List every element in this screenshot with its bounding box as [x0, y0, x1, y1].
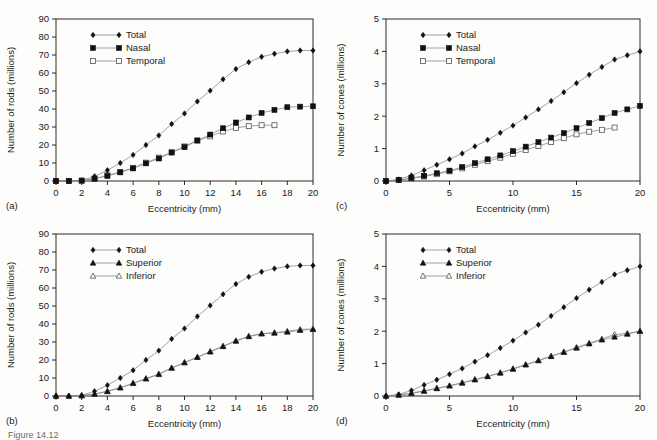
marker-filled-triangle	[420, 260, 426, 265]
x-tick-label: 14	[231, 187, 242, 198]
legend-label: Total	[126, 29, 146, 40]
marker-filled-diamond	[247, 60, 251, 65]
marker-filled-diamond	[536, 107, 540, 112]
legend-label: Inferior	[126, 270, 156, 281]
x-tick-label: 10	[508, 402, 519, 413]
x-tick-label: 0	[383, 187, 388, 198]
marker-filled-diamond	[421, 32, 425, 37]
marker-filled-diamond	[638, 264, 642, 269]
marker-filled-diamond	[422, 168, 426, 173]
x-tick-label: 6	[130, 187, 135, 198]
panel-label: (c)	[336, 200, 347, 211]
marker-filled-diamond	[105, 383, 109, 388]
marker-filled-diamond	[272, 266, 276, 271]
marker-filled-diamond	[498, 345, 502, 350]
marker-filled-square	[549, 135, 554, 140]
marker-filled-square	[447, 168, 452, 173]
marker-filled-square	[233, 120, 238, 125]
marker-filled-diamond	[549, 98, 553, 103]
marker-filled-square	[485, 157, 490, 162]
y-tick-label: 30	[38, 336, 49, 347]
marker-filled-diamond	[562, 90, 566, 95]
series-markers-total	[54, 263, 315, 399]
marker-filled-diamond	[473, 144, 477, 149]
marker-filled-square	[169, 150, 174, 155]
y-tick-label: 40	[38, 318, 49, 329]
marker-open-triangle	[90, 273, 96, 278]
marker-filled-square	[221, 126, 226, 131]
marker-filled-square	[298, 104, 303, 109]
marker-filled-diamond	[498, 130, 502, 135]
marker-open-square	[599, 127, 604, 132]
x-tick-label: 0	[53, 402, 58, 413]
marker-open-square	[246, 124, 251, 129]
series-markers-nasal	[384, 103, 643, 183]
panel-label: (d)	[336, 415, 348, 426]
y-tick-label: 50	[38, 85, 49, 96]
marker-filled-diamond	[170, 121, 174, 126]
x-tick-label: 4	[105, 187, 110, 198]
marker-filled-square	[91, 46, 96, 51]
marker-open-square	[447, 59, 452, 64]
marker-filled-diamond	[118, 160, 122, 165]
y-tick-label: 0	[374, 175, 379, 186]
marker-filled-diamond	[447, 247, 451, 252]
marker-filled-square	[472, 161, 477, 166]
y-tick-label: 70	[38, 264, 49, 275]
marker-filled-square	[285, 105, 290, 110]
marker-filled-square	[523, 144, 528, 149]
marker-filled-square	[156, 156, 161, 161]
marker-filled-diamond	[234, 66, 238, 71]
marker-filled-triangle	[90, 260, 96, 265]
marker-filled-triangle	[116, 260, 122, 265]
marker-filled-square	[259, 110, 264, 115]
y-tick-label: 3	[374, 78, 379, 89]
chart-panel-b: 010203040506070809002468101214161820Ecce…	[0, 215, 330, 430]
y-tick-label: 20	[38, 139, 49, 150]
plot-frame	[386, 19, 640, 181]
legend: TotalNasalTemporal	[421, 29, 496, 66]
series-markers-total	[384, 264, 642, 399]
x-tick-label: 16	[256, 402, 267, 413]
legend-label: Temporal	[456, 55, 495, 66]
marker-filled-diamond	[221, 77, 225, 82]
chart-panel-d: 01234505101520Eccentricity (mm)Number of…	[330, 215, 657, 430]
marker-filled-diamond	[311, 48, 315, 53]
y-tick-label: 50	[38, 300, 49, 311]
marker-filled-square	[612, 110, 617, 115]
marker-filled-diamond	[298, 48, 302, 53]
marker-open-square	[117, 59, 122, 64]
x-tick-label: 12	[205, 187, 216, 198]
marker-filled-diamond	[435, 377, 439, 382]
x-tick-label: 18	[282, 402, 293, 413]
marker-open-square	[561, 136, 566, 141]
marker-filled-square	[384, 179, 389, 184]
y-tick-label: 20	[38, 354, 49, 365]
marker-filled-diamond	[311, 263, 315, 268]
marker-filled-diamond	[221, 292, 225, 297]
marker-filled-diamond	[511, 338, 515, 343]
marker-filled-square	[498, 153, 503, 158]
y-tick-label: 80	[38, 246, 49, 257]
legend-label: Total	[456, 29, 476, 40]
y-tick-label: 30	[38, 121, 49, 132]
plot-frame	[386, 234, 640, 396]
marker-filled-diamond	[524, 330, 528, 335]
marker-filled-square	[117, 46, 122, 51]
marker-filled-diamond	[91, 247, 95, 252]
marker-filled-diamond	[587, 72, 591, 77]
marker-filled-diamond	[485, 137, 489, 142]
plot-frame	[56, 234, 313, 396]
marker-filled-square	[105, 173, 110, 178]
y-axis-title: Number of rods (millions)	[5, 47, 16, 153]
marker-filled-diamond	[117, 247, 121, 252]
x-tick-label: 0	[53, 187, 58, 198]
y-tick-label: 3	[374, 293, 379, 304]
marker-filled-diamond	[435, 162, 439, 167]
series-markers-temporal	[54, 123, 277, 184]
legend: TotalSuperiorInferior	[420, 244, 492, 281]
marker-open-square	[574, 132, 579, 137]
marker-filled-diamond	[170, 336, 174, 341]
y-tick-label: 0	[44, 390, 49, 401]
marker-filled-diamond	[447, 157, 451, 162]
